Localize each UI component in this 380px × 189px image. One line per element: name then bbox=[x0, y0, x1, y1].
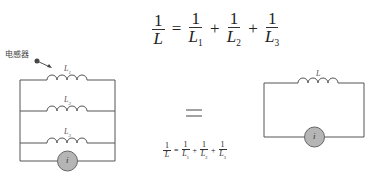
inductor-l bbox=[298, 78, 338, 83]
inductor-l3-label: L3 bbox=[64, 127, 71, 138]
source-label-left: i bbox=[66, 155, 69, 165]
inductor-l2 bbox=[47, 106, 87, 111]
inductor-l2-label: L2 bbox=[64, 95, 71, 106]
small-formula: 1L = 1L1 + 1L2 + 1L3 bbox=[163, 141, 227, 160]
circuit-diagram bbox=[0, 0, 380, 189]
inductor-l-label: L bbox=[316, 69, 320, 78]
inductor-l3 bbox=[47, 138, 87, 143]
source-label-right: i bbox=[313, 131, 316, 141]
inductor-l1-label: L1 bbox=[64, 64, 71, 75]
inductor-l1 bbox=[47, 75, 87, 80]
